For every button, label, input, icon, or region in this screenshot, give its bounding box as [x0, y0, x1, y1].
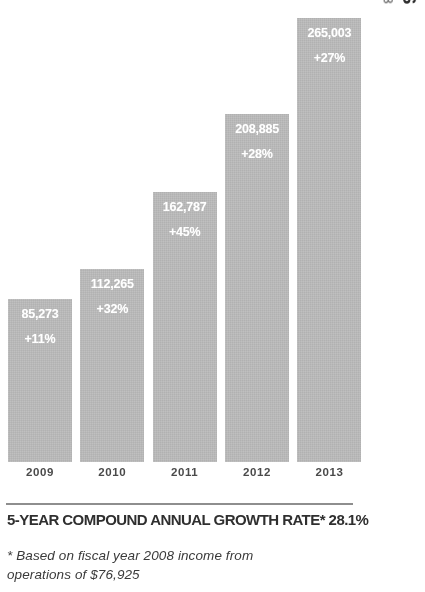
bar-label-group-2009: 85,273 +11% — [8, 299, 72, 346]
x-tick-2009: 2009 — [8, 466, 72, 478]
x-axis: 2009 2010 2011 2012 2013 — [0, 466, 360, 486]
x-tick-2012: 2012 — [225, 466, 289, 478]
bar-label-group-2013: 265,003 +27% — [297, 18, 361, 65]
bar-2012: 208,885 +28% — [225, 114, 289, 462]
bar-2010: 112,265 +32% — [80, 269, 144, 462]
bar-label-group-2010: 112,265 +32% — [80, 269, 144, 316]
bar-growth-2013: +27% — [297, 40, 361, 65]
x-tick-2010: 2010 — [80, 466, 144, 478]
bar-growth-2011: +45% — [153, 214, 217, 239]
x-tick-2011: 2011 — [153, 466, 217, 478]
bar-value-2012: 208,885 — [225, 114, 289, 136]
bar-value-2010: 112,265 — [80, 269, 144, 291]
plot-area: 85,273 +11% 112,265 +32% 162,787 +45% 20… — [0, 0, 360, 462]
cagr-statement: 5-YEAR COMPOUND ANNUAL GROWTH RATE* 28.1… — [7, 511, 422, 528]
footnote-line-1: * Based on fiscal year 2008 income from — [7, 546, 367, 565]
bar-value-2009: 85,273 — [8, 299, 72, 321]
bar-label-group-2011: 162,787 +45% — [153, 192, 217, 239]
chart-title: INCOME FROM OPERATIONS — [398, 0, 419, 4]
chart-title-block: INCOME FROM OPERATIONS $ IN THOUSANDS; Y… — [359, 0, 425, 460]
footer-divider — [6, 503, 353, 505]
bar-growth-2012: +28% — [225, 136, 289, 161]
bar-growth-2010: +32% — [80, 291, 144, 316]
chart-figure: 85,273 +11% 112,265 +32% 162,787 +45% 20… — [0, 0, 425, 592]
bar-label-group-2012: 208,885 +28% — [225, 114, 289, 161]
bar-value-2013: 265,003 — [297, 18, 361, 40]
bar-growth-2009: +11% — [8, 321, 72, 346]
bar-2009: 85,273 +11% — [8, 299, 72, 462]
footnote-line-2: operations of $76,925 — [7, 565, 367, 584]
bar-2013: 265,003 +27% — [297, 18, 361, 462]
bar-value-2011: 162,787 — [153, 192, 217, 214]
chart-subtitle: $ IN THOUSANDS; YEAR 2009-2013 — [381, 0, 395, 4]
bar-2011: 162,787 +45% — [153, 192, 217, 462]
x-tick-2013: 2013 — [297, 466, 361, 478]
footnote: * Based on fiscal year 2008 income from … — [7, 546, 367, 584]
